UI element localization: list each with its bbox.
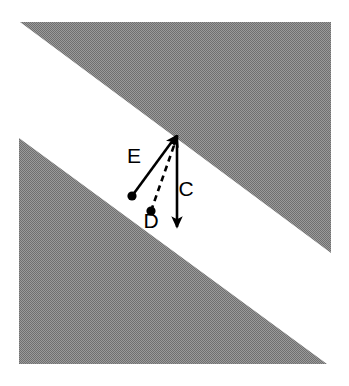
vector-label-e: E xyxy=(127,144,141,167)
vector-label-c: C xyxy=(178,177,193,200)
vector-diagram: E D C xyxy=(0,0,349,386)
vector-label-d: D xyxy=(143,209,158,232)
figure-container: E D C xyxy=(0,0,349,386)
vector-e-origin-dot xyxy=(127,191,136,200)
